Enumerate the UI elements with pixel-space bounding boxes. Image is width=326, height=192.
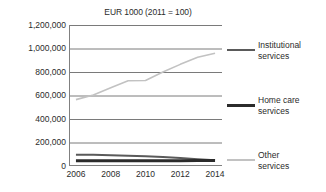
series-lines: [76, 53, 215, 161]
x-tick-label: 2008: [101, 170, 120, 179]
x-tick-label: 2010: [136, 170, 155, 179]
series-line-other-services: [76, 53, 215, 99]
x-tick-label: 2012: [171, 170, 190, 179]
legend-label-line1: Home care: [258, 95, 300, 105]
legend-label: Otherservices: [258, 150, 326, 172]
plot-area: [69, 25, 222, 166]
legend-label: Institutionalservices: [258, 40, 326, 62]
y-tick-label: 1,200,000: [4, 21, 66, 30]
legend-label-line2: services: [258, 161, 289, 171]
legend-swatch-icon: [227, 45, 255, 51]
legend-swatch-icon: [227, 155, 255, 161]
y-tick-label: 0: [4, 162, 66, 171]
legend-label-line1: Institutional: [258, 40, 301, 50]
legend-label-line1: Other: [258, 150, 279, 160]
line-chart: EUR 1000 (2011 = 100) 0200,000400,000600…: [0, 0, 326, 192]
legend-label-line2: services: [258, 106, 289, 116]
y-tick-label: 600,000: [4, 91, 66, 100]
chart-legend: InstitutionalservicesHome careservicesOt…: [227, 28, 326, 188]
y-tick-label: 800,000: [4, 68, 66, 77]
x-tick-label: 2014: [206, 170, 225, 179]
x-tick-label: 2006: [66, 170, 85, 179]
y-tick-label: 400,000: [4, 115, 66, 124]
y-tick-label: 200,000: [4, 138, 66, 147]
chart-title: EUR 1000 (2011 = 100): [68, 7, 228, 17]
plot-svg: [69, 25, 222, 166]
legend-label-line2: services: [258, 51, 289, 61]
legend-swatch-icon: [227, 100, 255, 107]
y-axis-tick-labels: 0200,000400,000600,000800,0001,000,0001,…: [0, 0, 66, 192]
y-tick-label: 1,000,000: [4, 44, 66, 53]
legend-label: Home careservices: [258, 95, 326, 117]
